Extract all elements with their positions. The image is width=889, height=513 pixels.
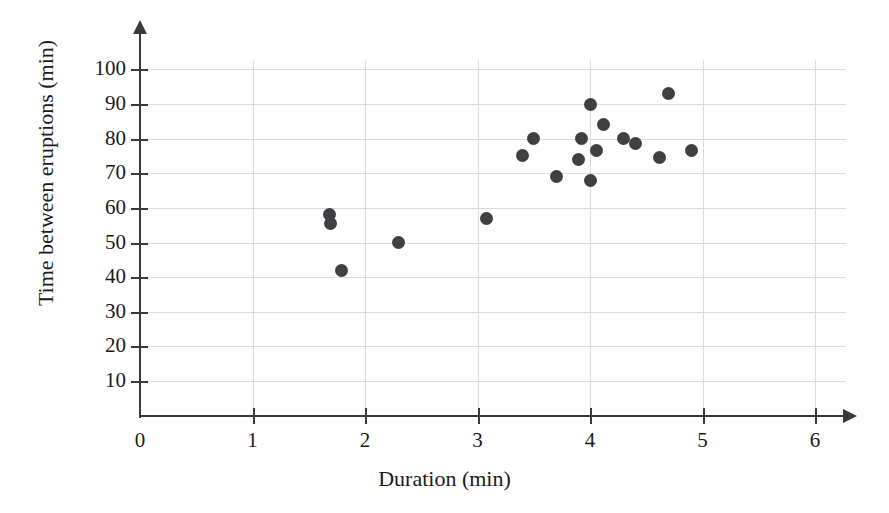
data-point	[324, 217, 337, 230]
data-point	[550, 170, 563, 183]
y-axis-tick	[131, 173, 148, 175]
x-axis-arrow-icon	[843, 409, 857, 423]
y-axis-tick-label: 80	[62, 128, 126, 149]
y-axis-tick	[131, 312, 148, 314]
y-axis-tick-label: 20	[62, 335, 126, 356]
plot-area	[140, 60, 846, 416]
gridline-vertical	[815, 60, 816, 416]
gridline-horizontal	[140, 381, 846, 382]
y-axis-tick	[131, 277, 148, 279]
y-axis-tick-label: 100	[62, 58, 126, 79]
x-axis-title: Duration (min)	[0, 466, 889, 492]
y-axis-tick-label: 60	[62, 197, 126, 218]
x-axis-tick-label: 5	[683, 428, 723, 452]
x-axis-tick	[253, 408, 255, 424]
y-axis-title-wrapper: Time between eruptions (min)	[33, 23, 59, 323]
y-axis-tick	[131, 104, 148, 106]
x-axis-tick-label: 3	[458, 428, 498, 452]
gridline-horizontal	[140, 173, 846, 174]
gridline-vertical	[478, 60, 479, 416]
data-point	[575, 132, 588, 145]
x-axis-tick-label: 4	[570, 428, 610, 452]
x-axis-tick	[590, 408, 592, 424]
data-point	[480, 212, 493, 225]
gridline-horizontal	[140, 346, 846, 347]
gridline-horizontal	[140, 312, 846, 313]
data-point	[584, 174, 597, 187]
y-axis-tick-label: 70	[62, 162, 126, 183]
y-axis-tick	[131, 69, 148, 71]
x-axis-tick	[478, 408, 480, 424]
x-axis-tick-label: 1	[233, 428, 273, 452]
gridline-vertical	[365, 60, 366, 416]
gridline-horizontal	[140, 243, 846, 244]
gridline-horizontal	[140, 69, 846, 70]
y-axis-tick	[131, 381, 148, 383]
gridline-vertical	[590, 60, 591, 416]
x-axis-tick	[703, 408, 705, 424]
x-axis-tick-label: 0	[120, 428, 160, 452]
gridline-horizontal	[140, 208, 846, 209]
y-axis-line	[139, 30, 141, 418]
x-axis-tick	[815, 408, 817, 424]
gridline-horizontal	[140, 277, 846, 278]
gridline-vertical	[253, 60, 254, 416]
x-axis-line	[139, 415, 845, 417]
x-axis-tick-label: 2	[345, 428, 385, 452]
gridline-horizontal	[140, 104, 846, 105]
y-axis-tick-label: 10	[62, 370, 126, 391]
data-point	[335, 264, 348, 277]
scatter-plot-figure: 102030405060708090100 0123456 Duration (…	[0, 0, 889, 513]
y-axis-tick	[131, 208, 148, 210]
x-axis-tick	[365, 408, 367, 424]
y-axis-tick-label: 40	[62, 266, 126, 287]
y-axis-arrow-icon	[133, 20, 147, 34]
y-axis-tick	[131, 139, 148, 141]
y-axis-tick-label: 30	[62, 301, 126, 322]
data-point	[584, 98, 597, 111]
y-axis-title: Time between eruptions (min)	[33, 40, 58, 306]
y-axis-tick	[131, 346, 148, 348]
gridline-vertical	[703, 60, 704, 416]
gridline-horizontal	[140, 139, 846, 140]
y-axis-tick	[131, 243, 148, 245]
data-point	[685, 144, 698, 157]
y-axis-tick-label: 90	[62, 93, 126, 114]
x-axis-tick-label: 6	[795, 428, 835, 452]
data-point	[629, 137, 642, 150]
y-axis-tick-label: 50	[62, 232, 126, 253]
